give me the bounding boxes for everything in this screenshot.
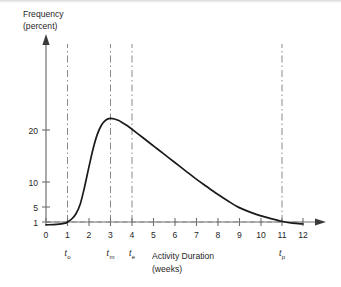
y-tick-label-20: 20 [28,126,38,136]
x-tick-label-10: 10 [256,230,266,240]
y-axis-title: Frequency [23,9,64,19]
x-tick-label-4: 4 [130,230,135,240]
marker-label-t-expected: te [129,248,136,260]
x-axis-title-unit: (weeks) [152,264,182,274]
chart-figure: 20 10 5 1 [0,0,341,287]
activity-duration-frequency-chart: 20 10 5 1 [0,0,341,287]
marker-label-t-pessimistic: tp [279,248,286,260]
scan-artifact-edge [0,0,341,3]
marker-label-t-optimistic: to [64,248,71,260]
frequency-distribution-curve [46,118,303,224]
x-axis-tick-labels: 0 1 2 3 4 5 6 7 8 9 10 11 12 [44,230,308,240]
x-tick-label-2: 2 [87,230,92,240]
marker-label-t-most-likely: tm [107,248,115,260]
y-tick-label-1: 1 [33,218,38,228]
x-tick-label-5: 5 [151,230,156,240]
x-tick-label-11: 11 [278,230,287,240]
x-tick-label-12: 12 [298,230,308,240]
y-axis-ticks: 20 10 5 1 [28,126,50,228]
x-axis-title: Activity Duration [152,251,214,261]
marker-lines-group [68,44,283,222]
x-tick-label-6: 6 [173,230,178,240]
x-tick-label-9: 9 [237,230,242,240]
x-tick-label-3: 3 [108,230,113,240]
y-tick-label-10: 10 [28,178,38,188]
y-axis-arrowhead [42,34,49,45]
x-tick-label-1: 1 [65,230,70,240]
x-tick-label-8: 8 [216,230,221,240]
x-tick-label-7: 7 [194,230,199,240]
x-tick-label-0: 0 [44,230,49,240]
axes-group [42,34,326,226]
x-axis-arrowhead [315,218,326,225]
y-tick-label-5: 5 [33,203,38,213]
y-axis-title-unit: (percent) [23,21,58,31]
